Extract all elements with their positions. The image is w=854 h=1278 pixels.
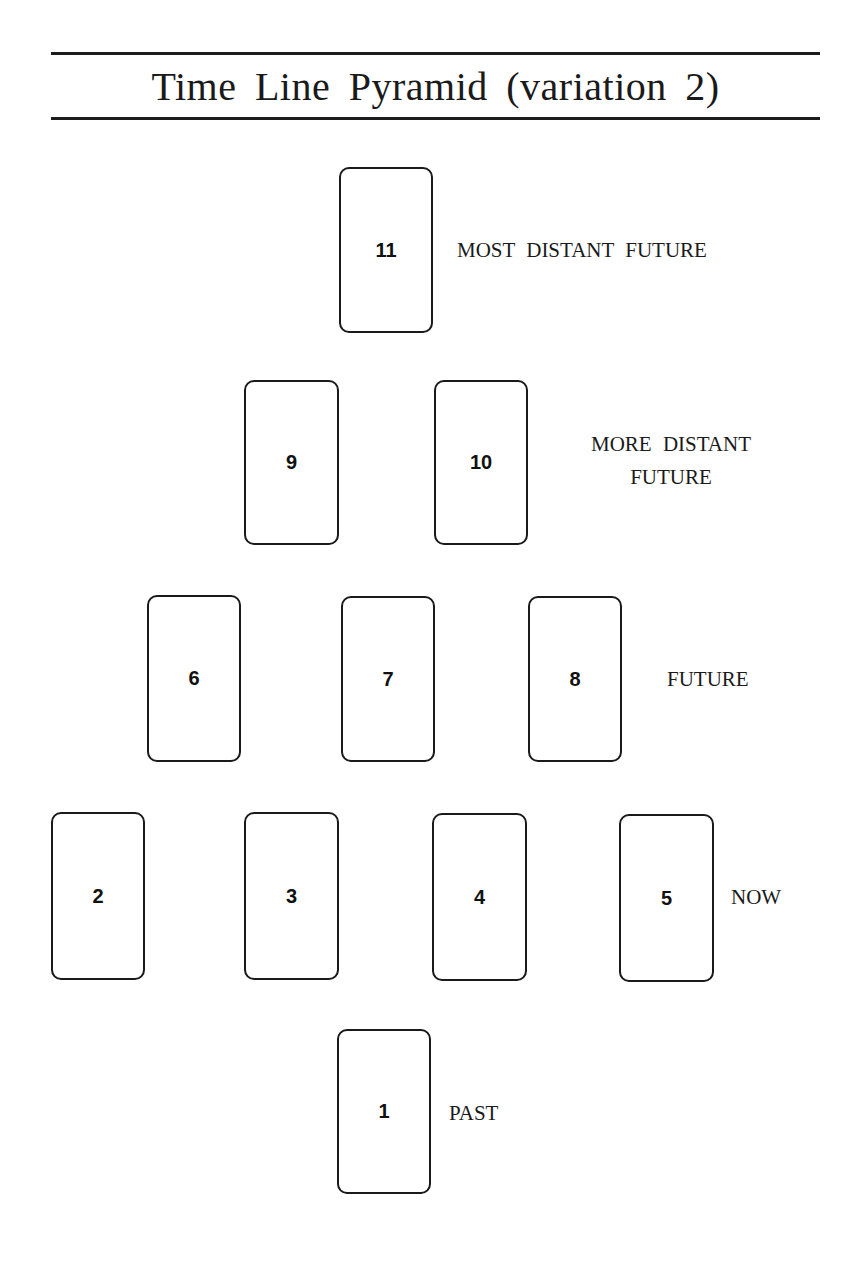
label-more-distant-future: MORE DISTANT FUTURE xyxy=(556,428,786,494)
card-number: 11 xyxy=(375,239,396,262)
card-position-11: 11 xyxy=(339,167,433,333)
card-number: 4 xyxy=(474,886,485,909)
card-position-1: 1 xyxy=(337,1029,431,1194)
card-number: 9 xyxy=(286,451,297,474)
card-number: 10 xyxy=(470,451,492,474)
card-number: 8 xyxy=(569,668,580,691)
card-number: 6 xyxy=(188,667,199,690)
page-title: Time Line Pyramid (variation 2) xyxy=(51,58,820,116)
card-number: 2 xyxy=(92,885,103,908)
card-position-5: 5 xyxy=(619,814,714,982)
card-position-8: 8 xyxy=(528,596,622,762)
card-number: 7 xyxy=(382,668,393,691)
card-position-2: 2 xyxy=(51,812,145,980)
card-number: 1 xyxy=(378,1100,389,1123)
label-line-1: MORE DISTANT xyxy=(556,428,786,461)
card-number: 5 xyxy=(661,887,672,910)
title-bottom-rule xyxy=(51,117,820,120)
card-position-3: 3 xyxy=(244,812,339,980)
card-position-4: 4 xyxy=(432,813,527,981)
card-position-6: 6 xyxy=(147,595,241,762)
label-line-2: FUTURE xyxy=(556,461,786,494)
card-position-9: 9 xyxy=(244,380,339,545)
card-position-7: 7 xyxy=(341,596,435,762)
label-future: FUTURE xyxy=(667,667,749,692)
card-number: 3 xyxy=(286,885,297,908)
label-past: PAST xyxy=(449,1101,498,1126)
label-most-distant-future: MOST DISTANT FUTURE xyxy=(457,238,707,263)
label-now: NOW xyxy=(731,885,781,910)
title-top-rule xyxy=(51,52,820,55)
card-position-10: 10 xyxy=(434,380,528,545)
